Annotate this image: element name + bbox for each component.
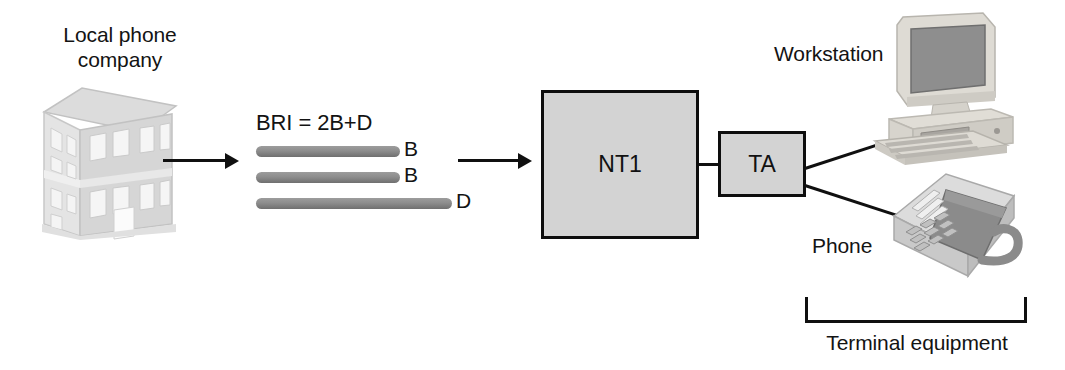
channel-label-d: D [456,189,471,213]
channel-bar-d [256,198,452,209]
desk-telephone-icon [882,168,1030,296]
channel-label-b1: B [404,137,418,161]
arrow-channels-to-nt1-head [518,153,532,169]
arrow-building-to-channels-line [163,159,227,162]
channel-bar-b1 [256,146,400,157]
node-box-ta: TA [718,131,806,197]
isdn-bri-diagram: Local phone company [0,0,1065,370]
label-phone: Phone [812,233,872,258]
label-terminal-equipment: Terminal equipment [806,330,1028,355]
arrow-building-to-channels-head [225,153,239,169]
desktop-computer-icon [855,5,1020,170]
label-bri: BRI = 2B+D [256,110,372,135]
channel-bar-b2 [256,172,400,183]
arrow-channels-to-nt1-line [458,159,520,162]
office-building-icon [36,84,180,240]
channel-label-b2: B [404,163,418,187]
connector-nt1-to-ta [699,163,719,166]
node-box-nt1: NT1 [541,90,699,239]
label-local-phone-company: Local phone company [34,22,206,72]
bracket-terminal-equipment [805,297,1027,323]
